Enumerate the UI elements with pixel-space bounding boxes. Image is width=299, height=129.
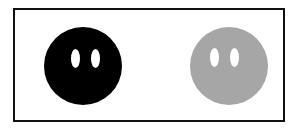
black-face-circle [44, 27, 122, 105]
left-eye [210, 48, 219, 67]
image-frame [13, 8, 285, 122]
left-eye [71, 49, 80, 68]
right-eye [91, 49, 100, 68]
gray-face-circle [190, 27, 268, 105]
right-eye [230, 48, 239, 67]
